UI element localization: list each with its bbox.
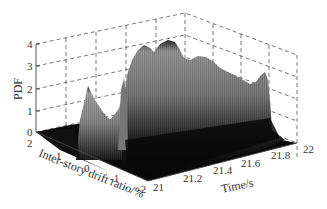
svg-text:21.8: 21.8 (271, 149, 291, 161)
z-axis-label: PDF (11, 78, 25, 100)
svg-text:22: 22 (303, 143, 314, 155)
svg-text:1: 1 (27, 105, 33, 117)
x-axis-label: Time/s (220, 175, 255, 196)
svg-text:2: 2 (27, 137, 33, 149)
svg-text:3: 3 (27, 60, 33, 72)
svg-text:21.6: 21.6 (241, 157, 261, 169)
svg-text:21.2: 21.2 (183, 172, 202, 184)
svg-text:4: 4 (27, 38, 33, 50)
z-tick-labels: 0 1 2 3 4 (27, 38, 33, 138)
pdf-surface-chart: 0 1 2 3 4 PDF 2 1 0 -1 -2 Inter-story dr… (0, 0, 327, 209)
svg-text:21: 21 (153, 181, 164, 193)
svg-text:2: 2 (27, 83, 33, 95)
svg-text:21.4: 21.4 (213, 164, 233, 176)
